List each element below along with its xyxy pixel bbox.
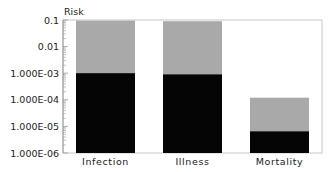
bar-mortality	[250, 98, 309, 153]
y-tick-label: 0.01	[38, 41, 59, 52]
y-tick-label: 1.000E-03	[10, 68, 59, 79]
risk-bar-chart: Risk 0.10.011.000E-031.000E-041.000E-051…	[0, 0, 333, 172]
x-category-label: Infection	[82, 156, 129, 167]
bar-segment-lower	[76, 73, 135, 153]
y-tick-label: 1.000E-06	[10, 148, 59, 159]
bar-segment-lower	[163, 74, 222, 153]
y-tick-label: 1.000E-04	[10, 94, 59, 105]
x-category-label: Illness	[175, 156, 209, 167]
y-tick-label: 1.000E-05	[10, 121, 59, 132]
y-tick-label: 0.1	[44, 15, 59, 26]
x-category-label: Mortality	[256, 156, 304, 167]
bar-infection	[76, 21, 135, 153]
bar-illness	[163, 21, 222, 153]
y-axis-label: Risk	[64, 6, 84, 17]
bars	[76, 21, 309, 153]
y-axis: 0.10.011.000E-031.000E-041.000E-051.000E…	[10, 15, 68, 159]
bar-segment-lower	[250, 131, 309, 153]
x-axis-labels: InfectionIllnessMortality	[82, 156, 303, 167]
